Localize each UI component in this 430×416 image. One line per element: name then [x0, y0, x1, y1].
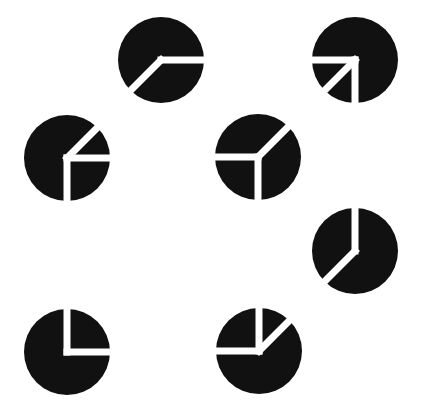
- pie-icon-3: [23, 114, 111, 202]
- pie-chart-icon: [311, 207, 399, 295]
- pie-chart-icon: [214, 113, 302, 201]
- pie-chart-icon: [117, 16, 205, 104]
- pie-icon-2: [311, 16, 399, 104]
- pie-icon-1: [117, 16, 205, 104]
- pie-chart-icon: [23, 308, 111, 396]
- pie-icon-grid: [0, 0, 430, 416]
- pie-icon-6: [23, 308, 111, 396]
- pie-icon-4: [214, 113, 302, 201]
- pie-chart-icon: [311, 16, 399, 104]
- pie-icon-7: [215, 307, 303, 395]
- pie-icon-5: [311, 207, 399, 295]
- pie-chart-icon: [215, 307, 303, 395]
- pie-chart-icon: [23, 114, 111, 202]
